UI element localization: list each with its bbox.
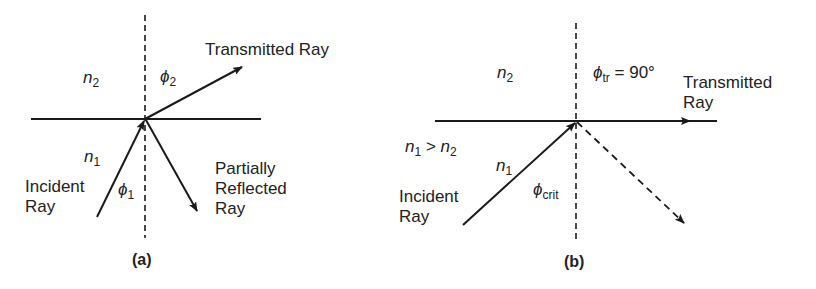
incident-ray-label-a: IncidentRay: [25, 177, 85, 217]
reflected-ray-label: PartiallyReflectedRay: [215, 159, 287, 219]
n2-label-a: n2: [83, 68, 99, 89]
incident-ray-label-b: IncidentRay: [399, 187, 459, 227]
panel-b-graphics: [435, 23, 717, 240]
phi1-label: ϕ1: [118, 180, 134, 201]
condition-label: n1 > n2: [405, 137, 457, 158]
n2-label-b: n2: [497, 63, 513, 84]
incident-ray-b: [463, 123, 575, 225]
transmitted-ray-label-a: Transmitted Ray: [205, 40, 329, 60]
phi2-label: ϕ2: [160, 67, 176, 88]
refraction-diagram: n2 ϕ2 Transmitted Ray n1 IncidentRay ϕ1 …: [0, 0, 816, 289]
reflected-ray-a: [146, 120, 197, 211]
phi-crit-label: ϕcrit: [533, 180, 558, 201]
transmitted-ray-label-b: TransmittedRay: [683, 73, 772, 113]
caption-b: (b): [564, 252, 584, 272]
caption-a: (a): [132, 250, 152, 270]
incident-ray-a: [97, 121, 144, 217]
reflected-ray-b: [577, 122, 684, 223]
n1-label-a: n1: [84, 147, 100, 168]
n1-label-b: n1: [496, 156, 512, 177]
phi-tr-label: ϕtr = 90°: [593, 63, 655, 84]
